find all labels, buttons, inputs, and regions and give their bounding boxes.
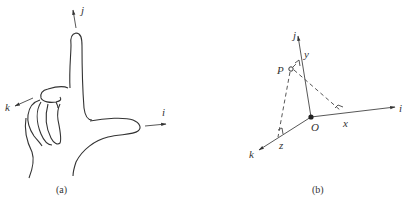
point-p-label: P <box>276 64 284 76</box>
right-angle-mark-x <box>335 105 343 108</box>
knuckle-line <box>56 102 58 108</box>
folded-finger-3 <box>46 104 61 144</box>
panel-b-frame: j i k O P x y z (b) <box>249 29 402 196</box>
j-axis-arrow-a <box>73 10 76 28</box>
origin-label: O <box>311 121 319 133</box>
projection-to-i <box>294 70 340 110</box>
right-angle-mark-y <box>295 60 300 66</box>
projection-to-k <box>278 72 290 137</box>
folded-fingers <box>28 100 42 146</box>
i-axis-arrow-a <box>145 124 166 126</box>
origin-point <box>308 114 313 119</box>
x-label: x <box>342 117 348 129</box>
i-label-b: i <box>399 102 402 114</box>
caption-b: (b) <box>312 184 324 196</box>
index-finger <box>70 33 92 120</box>
thumb <box>73 118 140 176</box>
k-label-b: k <box>249 148 255 160</box>
folded-finger-2 <box>37 102 52 145</box>
panel-a-hand: j k i (a) <box>5 4 166 196</box>
k-axis-b <box>259 117 311 150</box>
k-axis-arrow-a <box>15 98 33 106</box>
k-label-a: k <box>5 101 11 113</box>
caption-a: (a) <box>56 184 67 196</box>
coordinate-system-figure: j k i (a) j i k O <box>0 0 408 204</box>
i-label-a: i <box>162 106 165 118</box>
point-p <box>289 67 293 71</box>
right-angle-mark-z <box>278 128 283 134</box>
j-label-b: j <box>291 29 296 41</box>
curled-finger-top <box>41 87 68 103</box>
y-label: y <box>303 48 309 60</box>
j-label-a: j <box>79 4 84 16</box>
i-axis-b <box>311 107 395 117</box>
z-label: z <box>278 139 284 151</box>
